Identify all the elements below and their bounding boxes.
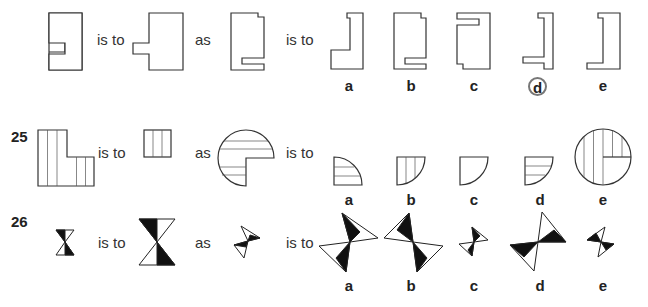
q25-is-to-2: is to (286, 144, 314, 161)
q24-figure-2 (131, 12, 191, 72)
q26-figure-3 (232, 225, 266, 261)
q24-option-a-figure[interactable] (330, 12, 370, 72)
q24-option-b-label[interactable]: b (401, 77, 421, 94)
q26-option-c-figure[interactable] (458, 226, 492, 262)
q26-option-e-label[interactable]: e (593, 277, 613, 294)
q26-is-to-1: is to (98, 234, 126, 251)
q25-option-c-figure[interactable] (459, 156, 491, 188)
q24-is-to-2: is to (286, 31, 314, 48)
q25-option-b-figure[interactable] (396, 156, 428, 188)
q24-option-e-figure[interactable] (586, 12, 626, 72)
q26-option-a-label[interactable]: a (339, 277, 359, 294)
q25-figure-3 (218, 127, 282, 191)
q25-option-a-figure[interactable] (333, 156, 365, 188)
q26-as: as (195, 234, 211, 251)
q26-number: 26 (11, 213, 28, 230)
q24-option-a-label[interactable]: a (339, 77, 359, 94)
q24-option-d-figure[interactable] (522, 12, 562, 72)
q24-is-to-1: is to (97, 31, 125, 48)
q25-figure-2 (143, 129, 173, 159)
q25-option-b-label[interactable]: b (401, 191, 421, 208)
q25-as: as (195, 144, 211, 161)
q25-option-d-label[interactable]: d (530, 191, 550, 208)
q26-figure-2 (138, 218, 178, 268)
q25-figure-1 (37, 129, 97, 189)
q25-option-c-label[interactable]: c (464, 191, 484, 208)
q26-figure-1 (55, 229, 77, 257)
q26-option-b-figure[interactable] (383, 212, 447, 274)
q25-is-to-1: is to (98, 144, 126, 161)
q26-option-e-figure[interactable] (586, 226, 620, 262)
q24-option-c-label[interactable]: c (464, 77, 484, 94)
q24-option-c-figure[interactable] (456, 12, 496, 72)
q24-option-d-label-selected[interactable]: d (528, 77, 547, 96)
q24-option-b-figure[interactable] (393, 12, 433, 72)
q26-option-d-figure[interactable] (508, 211, 570, 273)
q25-option-e-figure[interactable] (574, 128, 634, 188)
q25-option-d-figure[interactable] (524, 156, 556, 188)
q26-option-c-label[interactable]: c (464, 277, 484, 294)
q26-option-d-label[interactable]: d (530, 277, 550, 294)
q24-as: as (195, 31, 211, 48)
q26-option-b-label[interactable]: b (401, 277, 421, 294)
q24-figure-1-shape (48, 12, 88, 72)
q26-is-to-2: is to (286, 234, 314, 251)
q24-figure-3 (230, 12, 270, 72)
q25-number: 25 (11, 128, 28, 145)
q24-option-e-label[interactable]: e (593, 77, 613, 94)
q25-option-a-label[interactable]: a (339, 191, 359, 208)
q26-option-a-figure[interactable] (318, 212, 382, 274)
q25-option-e-label[interactable]: e (593, 191, 613, 208)
